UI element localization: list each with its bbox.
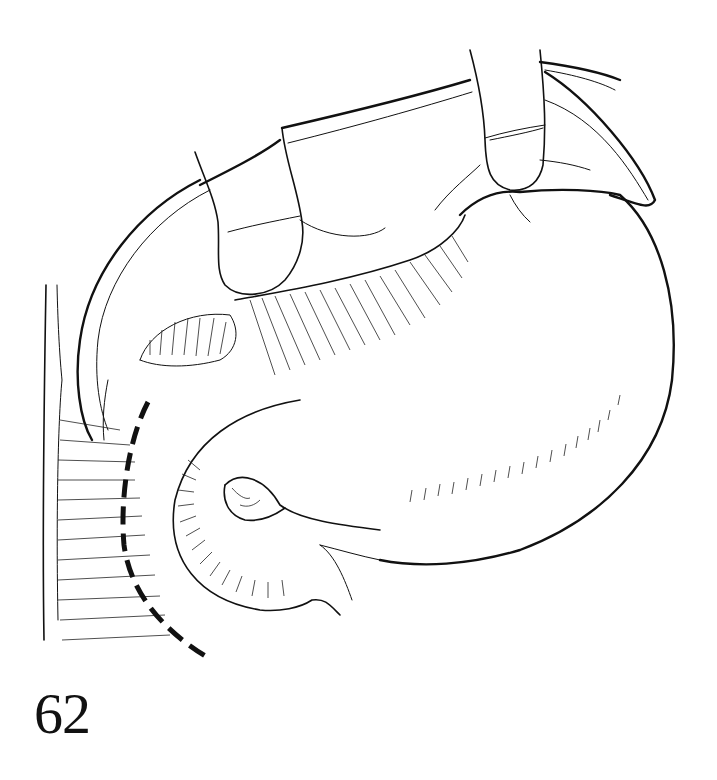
medical-illustration: 62: [0, 0, 717, 780]
retractor-left: [195, 128, 303, 294]
liver-edge: [200, 62, 655, 236]
stomach: [320, 190, 674, 600]
duodenum: [173, 400, 380, 615]
abdominal-wall: [43, 180, 210, 640]
retractor-right: [470, 50, 545, 190]
stomach-illustration: [0, 0, 717, 780]
figure-number: 62: [34, 685, 90, 743]
omentum: [58, 215, 468, 640]
incision-guide-line: [123, 402, 212, 660]
